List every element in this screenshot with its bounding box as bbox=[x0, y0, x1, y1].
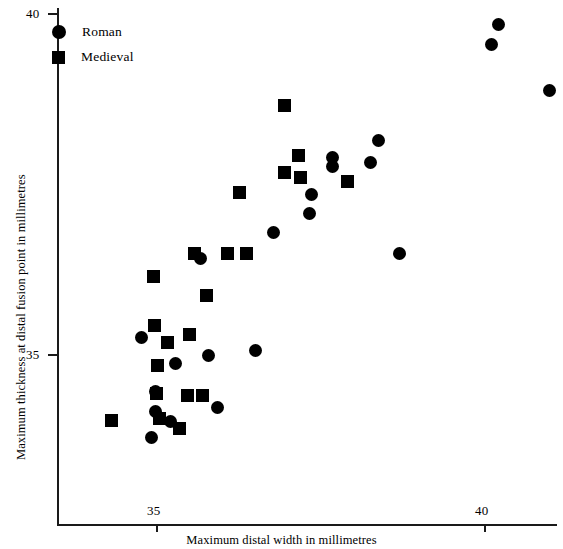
legend-label-medieval: Medieval bbox=[81, 49, 134, 65]
data-point-medieval bbox=[105, 414, 118, 427]
data-point-roman bbox=[305, 188, 318, 201]
x-tick-label: 35 bbox=[147, 504, 160, 517]
y-tick-label: 40 bbox=[26, 7, 39, 20]
data-point-roman bbox=[326, 160, 339, 173]
legend-item-medieval: Medieval bbox=[52, 49, 134, 65]
data-point-roman bbox=[393, 247, 406, 260]
data-point-medieval bbox=[200, 289, 213, 302]
data-point-medieval bbox=[341, 175, 354, 188]
legend-item-roman: Roman bbox=[52, 24, 122, 40]
data-point-roman bbox=[485, 38, 498, 51]
data-point-roman bbox=[145, 431, 158, 444]
data-point-roman bbox=[202, 349, 215, 362]
data-point-roman bbox=[492, 18, 505, 31]
data-point-medieval bbox=[153, 412, 166, 425]
scatter-plot: 35403540 Maximum distal width in millime… bbox=[0, 0, 563, 549]
y-tick bbox=[48, 354, 57, 356]
data-point-roman bbox=[267, 226, 280, 239]
data-point-medieval bbox=[181, 389, 194, 402]
y-axis-title: Maximum thickness at distal fusion point… bbox=[14, 174, 29, 460]
data-point-medieval bbox=[188, 247, 201, 260]
data-point-medieval bbox=[147, 270, 160, 283]
x-tick-label: 40 bbox=[475, 504, 488, 517]
square-icon bbox=[52, 51, 65, 64]
x-axis-title: Maximum distal width in millimetres bbox=[0, 533, 563, 548]
data-point-medieval bbox=[278, 166, 291, 179]
data-point-medieval bbox=[233, 186, 246, 199]
circle-icon bbox=[52, 25, 66, 39]
x-axis-line bbox=[57, 524, 557, 526]
data-point-roman bbox=[364, 156, 377, 169]
data-point-roman bbox=[169, 357, 182, 370]
x-tick bbox=[484, 524, 486, 532]
data-point-roman bbox=[303, 207, 316, 220]
data-point-medieval bbox=[173, 422, 186, 435]
y-tick bbox=[48, 13, 57, 15]
data-point-roman bbox=[372, 134, 385, 147]
data-point-medieval bbox=[240, 247, 253, 260]
y-axis-line bbox=[57, 8, 59, 526]
data-point-roman bbox=[211, 401, 224, 414]
legend-label-roman: Roman bbox=[82, 24, 122, 40]
data-point-medieval bbox=[151, 359, 164, 372]
data-point-medieval bbox=[294, 171, 307, 184]
data-point-medieval bbox=[278, 99, 291, 112]
data-point-medieval bbox=[148, 319, 161, 332]
data-point-roman bbox=[135, 331, 148, 344]
data-point-medieval bbox=[196, 389, 209, 402]
x-tick bbox=[156, 524, 158, 532]
data-point-medieval bbox=[292, 149, 305, 162]
data-point-roman bbox=[543, 84, 556, 97]
data-point-medieval bbox=[150, 387, 163, 400]
data-point-roman bbox=[249, 344, 262, 357]
data-point-medieval bbox=[183, 328, 196, 341]
data-point-medieval bbox=[221, 247, 234, 260]
data-point-medieval bbox=[161, 336, 174, 349]
